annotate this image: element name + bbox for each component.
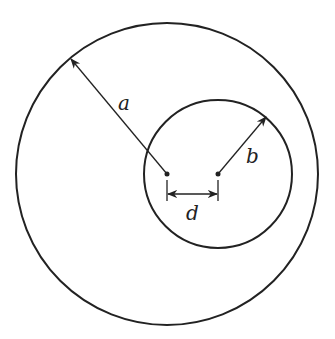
label-d: d bbox=[186, 201, 199, 225]
outer-center-dot bbox=[165, 172, 170, 177]
label-b: b bbox=[246, 144, 259, 168]
label-a: a bbox=[118, 91, 130, 115]
inner-center-dot bbox=[216, 172, 221, 177]
radius-a-arrow bbox=[71, 59, 167, 174]
diagram-canvas: a b d bbox=[0, 0, 335, 339]
